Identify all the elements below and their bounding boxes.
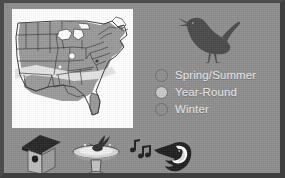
wren-silhouette xyxy=(176,13,244,65)
bird-head xyxy=(154,142,191,171)
legend-label-winter: Winter xyxy=(175,104,209,116)
legend-swatch-spring-summer xyxy=(155,69,168,82)
legend-label-spring-summer: Spring/Summer xyxy=(175,70,256,82)
birdhouse-icon xyxy=(18,132,64,178)
range-legend: Spring/Summer Year-Round Winter xyxy=(155,67,281,118)
legend-item-year-round[interactable]: Year-Round xyxy=(155,84,281,101)
legend-item-spring-summer[interactable]: Spring/Summer xyxy=(155,67,281,84)
legend-swatch-winter xyxy=(155,103,168,116)
legend-swatch-year-round xyxy=(155,86,168,99)
music-note-icon xyxy=(130,139,151,158)
birdbath-icon xyxy=(70,133,122,178)
bird-song-icon xyxy=(128,134,192,176)
range-map-panel xyxy=(12,9,133,128)
legend-item-winter[interactable]: Winter xyxy=(155,101,281,118)
bird-range-poster: Spring/Summer Year-Round Winter xyxy=(0,0,285,178)
legend-label-year-round: Year-Round xyxy=(175,87,237,99)
